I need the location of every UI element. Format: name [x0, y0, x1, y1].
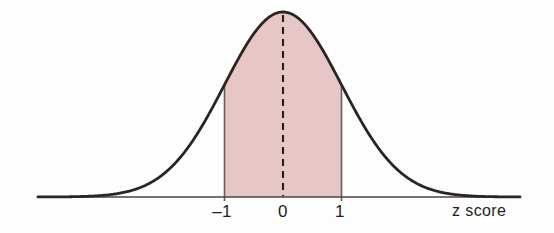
- tick-label-zero: 0: [278, 203, 288, 220]
- normal-distribution-figure: –1 0 1 z score: [0, 0, 554, 233]
- bell-curve-plot: [0, 0, 554, 233]
- tick-label-minus-1: –1: [212, 203, 232, 220]
- tick-label-one: 1: [335, 203, 345, 220]
- x-axis-title: z score: [452, 203, 506, 219]
